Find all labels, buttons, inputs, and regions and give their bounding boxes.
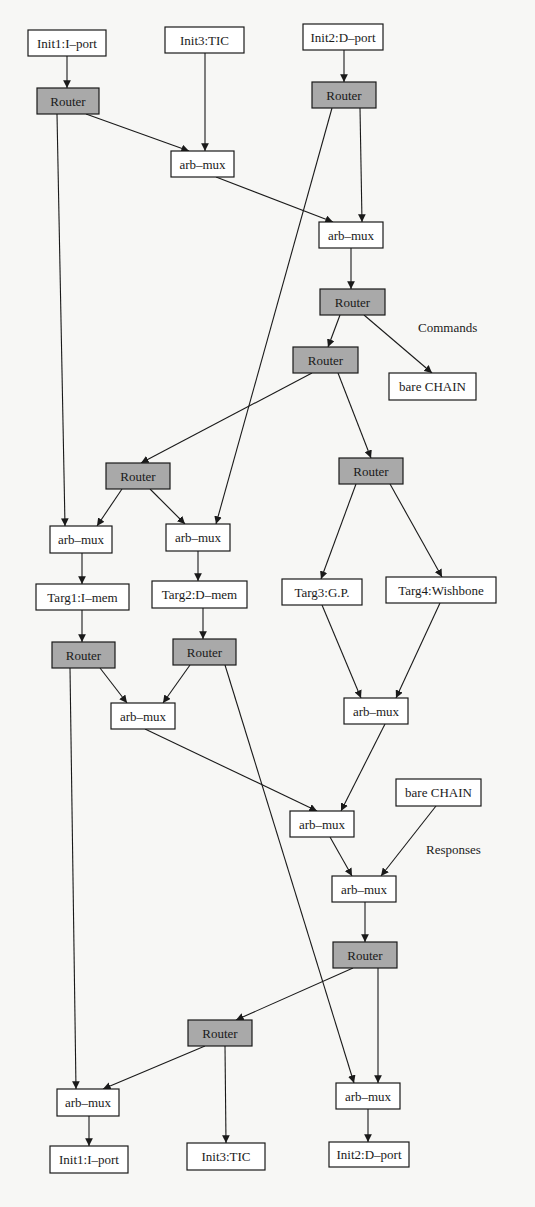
component-node: arb–mux [319, 222, 383, 248]
component-node: Targ4:Wishbone [386, 577, 496, 603]
router-node: Router [293, 347, 358, 373]
router-node: Router [173, 639, 236, 665]
edge-arrow [100, 668, 127, 703]
edge-arrow [321, 484, 356, 579]
arrow-icon [360, 108, 362, 222]
arrow-icon [141, 373, 312, 463]
arrow-icon [86, 114, 189, 151]
router-node: Router [37, 88, 99, 114]
node-label: arb–mux [353, 704, 400, 719]
component-node: bare CHAIN [396, 779, 481, 806]
arrow-icon [163, 665, 190, 703]
router-node: Router [52, 642, 115, 668]
router-node: Router [320, 289, 385, 315]
arrow-icon [57, 114, 65, 526]
node-label: Init2:D–port [337, 1147, 402, 1162]
edge-arrow [390, 484, 442, 577]
arrow-icon [328, 315, 340, 347]
node-label: Router [187, 645, 223, 660]
component-node: arb–mux [332, 876, 396, 902]
component-node: Init2:D–port [303, 24, 383, 50]
arrow-icon [70, 668, 76, 1089]
router-node: Router [339, 458, 403, 484]
edge-arrow [330, 837, 352, 876]
node-label: Init2:D–port [311, 30, 376, 45]
edge-arrow [322, 605, 361, 698]
component-node: arb–mux [111, 703, 175, 729]
component-node: Targ1:I–mem [36, 584, 129, 610]
node-label: Targ4:Wishbone [398, 583, 484, 598]
node-label: arb–mux [120, 709, 167, 724]
node-label: Router [202, 1026, 238, 1041]
router-node: Router [188, 1020, 252, 1046]
node-label: Router [326, 88, 362, 103]
edge-arrow [57, 114, 65, 526]
router-node: Router [312, 82, 376, 108]
responses-section-label: Responses [426, 842, 481, 857]
node-label: arb–mux [58, 532, 105, 547]
arrow-icon [97, 489, 122, 526]
router-node: Router [106, 463, 170, 489]
edge-arrow [396, 603, 440, 698]
node-label: Router [120, 469, 156, 484]
arrow-icon [330, 837, 352, 876]
node-label: arb–mux [341, 882, 388, 897]
edge-arrow [163, 665, 190, 703]
node-label: bare CHAIN [405, 785, 472, 800]
node-label: Router [66, 648, 102, 663]
arrow-icon [100, 668, 127, 703]
arrow-icon [236, 968, 353, 1020]
edge-arrow [381, 806, 436, 876]
arrow-icon [338, 373, 371, 458]
node-label: Init1:I–port [59, 1152, 119, 1167]
edge-arrow [150, 489, 185, 524]
component-node: Init1:I–port [28, 30, 106, 56]
component-node: arb–mux [50, 526, 112, 553]
node-label: Router [308, 353, 344, 368]
arrow-icon [321, 484, 356, 579]
nodes-layer: Init1:I–portInit3:TICInit2:D–portRouterR… [28, 24, 496, 1173]
edge-arrow [145, 729, 317, 811]
edge-arrow [236, 968, 353, 1020]
node-label: Targ2:D–mem [162, 587, 237, 602]
arrow-icon [390, 484, 442, 577]
component-node: Init1:I–port [50, 1146, 128, 1173]
component-node: arb–mux [290, 811, 354, 837]
edge-arrow [86, 114, 189, 151]
node-label: Router [353, 464, 389, 479]
edge-arrow [70, 668, 76, 1089]
arrow-icon [341, 724, 385, 811]
component-node: Targ2:D–mem [152, 581, 247, 608]
node-label: Init1:I–port [37, 36, 97, 51]
arrow-icon [216, 177, 333, 222]
node-label: Targ1:I–mem [47, 590, 117, 605]
router-node: Router [333, 942, 397, 968]
node-label: arb–mux [65, 1095, 112, 1110]
node-label: arb–mux [179, 157, 226, 172]
edge-arrow [97, 489, 122, 526]
component-node: Init2:D–port [329, 1142, 409, 1167]
commands-section-label: Commands [418, 320, 477, 335]
node-label: Router [335, 295, 371, 310]
component-node: Init3:TIC [165, 27, 244, 53]
edge-arrow [360, 108, 362, 222]
node-label: arb–mux [328, 228, 375, 243]
node-label: Router [347, 948, 383, 963]
edge-arrow [328, 315, 340, 347]
edge-arrow [103, 1046, 205, 1089]
arrow-icon [225, 1046, 226, 1143]
section-label-text: Commands [418, 320, 477, 335]
edge-arrow [141, 373, 312, 463]
arrow-icon [381, 806, 436, 876]
arrow-icon [322, 605, 361, 698]
node-label: Init3:TIC [180, 33, 229, 48]
component-node: bare CHAIN [389, 373, 476, 400]
arrow-icon [145, 729, 317, 811]
component-node: arb–mux [336, 1083, 400, 1109]
node-label: arb–mux [345, 1089, 392, 1104]
component-node: arb–mux [57, 1089, 119, 1116]
component-node: Init3:TIC [187, 1143, 265, 1170]
noc-topology-diagram: Init1:I–portInit3:TICInit2:D–portRouterR… [0, 0, 535, 1207]
edge-arrow [338, 373, 371, 458]
node-label: Targ3:G.P. [294, 585, 349, 600]
